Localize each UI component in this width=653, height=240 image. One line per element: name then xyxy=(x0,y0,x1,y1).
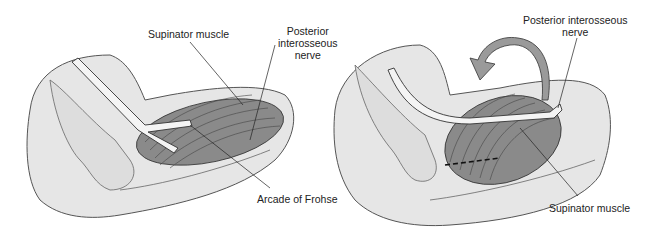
right-illustration-panel: Posterior interosseous nerve Supinator m… xyxy=(320,0,653,240)
label-pin-right-line1: Posterior interosseous xyxy=(523,14,627,26)
label-pin-right-line2: nerve xyxy=(523,26,627,38)
label-supinator-muscle-right: Supinator muscle xyxy=(549,202,630,214)
left-illustration-panel: Supinator muscle Posterior interosseous … xyxy=(0,0,320,240)
label-posterior-interosseous-nerve-right: Posterior interosseous nerve xyxy=(523,14,627,38)
label-supinator-muscle-left: Supinator muscle xyxy=(148,28,229,40)
